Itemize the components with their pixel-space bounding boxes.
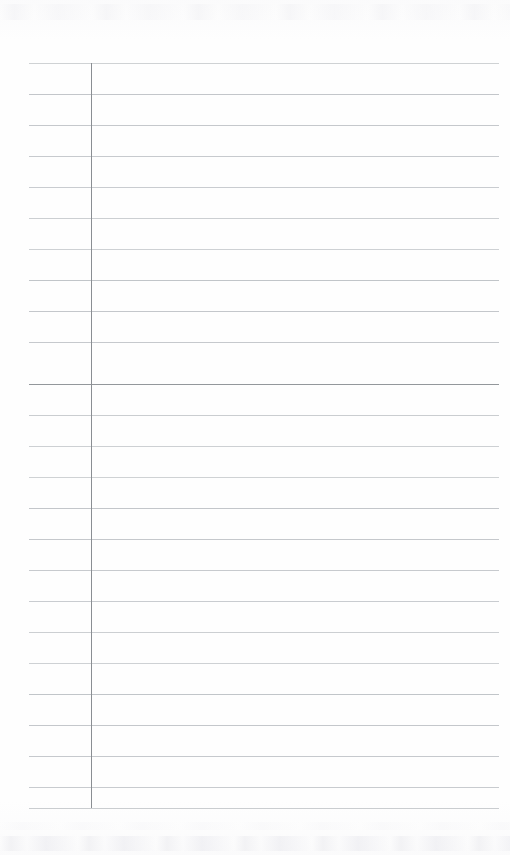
scan-noise-top-band	[0, 4, 510, 20]
margin-rule-vertical	[91, 63, 92, 808]
page-text-content[interactable]	[95, 63, 495, 808]
scan-noise-bottom-band	[0, 836, 510, 851]
scanned-page	[0, 0, 510, 855]
scan-noise-bottom-band-upper	[0, 822, 510, 830]
ruled-line	[29, 808, 499, 809]
